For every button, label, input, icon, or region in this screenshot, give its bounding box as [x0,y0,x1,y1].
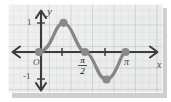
x-tick-label-half-pi: π 2 [78,56,87,75]
point-pi [121,48,129,56]
origin-label: O [33,58,40,67]
y-tick-label-one: 1 [27,18,32,27]
y-tick-label-neg-one: -1 [23,72,31,81]
figure-root: y x O 1 -1 π π 2 [0,0,171,102]
y-axis-label: y [47,6,52,17]
half-pi-numerator: π [78,56,87,64]
point-origin [35,48,43,56]
half-pi-denominator: 2 [78,67,87,75]
x-tick-label-pi: π [124,57,129,67]
sine-plot [0,0,171,102]
point-trough [102,75,110,83]
point-peak [59,19,67,27]
x-axis-label: x [157,60,161,70]
